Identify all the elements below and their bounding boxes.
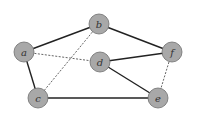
node-c: c <box>28 88 48 108</box>
node-label: b <box>96 19 102 30</box>
nodes-layer: abcdef <box>14 14 182 108</box>
node-b: b <box>89 14 109 34</box>
node-label: e <box>155 93 161 104</box>
node-d: d <box>90 52 110 72</box>
edge-d-f <box>100 52 172 62</box>
node-a: a <box>14 42 34 62</box>
node-label: d <box>97 57 103 68</box>
graph-diagram: abcdef <box>0 0 200 120</box>
node-e: e <box>148 88 168 108</box>
graph-svg: abcdef <box>0 0 200 120</box>
edge-b-f <box>99 24 172 52</box>
edge-a-d <box>24 52 100 62</box>
node-f: f <box>162 42 182 62</box>
node-label: a <box>21 47 27 58</box>
node-label: c <box>35 93 41 104</box>
